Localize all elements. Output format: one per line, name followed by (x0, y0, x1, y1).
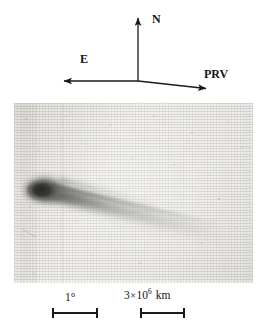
orientation-compass: N E PRV (0, 0, 267, 100)
comet-figure: N E PRV (0, 0, 267, 335)
compass-arrows-svg (0, 0, 267, 100)
east-label: E (80, 53, 88, 65)
comet-nucleus (32, 183, 52, 198)
angular-scale-label: 1° (65, 292, 75, 304)
north-label: N (152, 13, 161, 25)
scale-mantissa: 3 (124, 289, 130, 301)
scale-tick-right (183, 308, 185, 318)
linear-scale-label: 3×106km (124, 290, 170, 302)
photographic-plate (14, 103, 253, 283)
scale-tick-left (52, 308, 54, 318)
scale-unit: km (152, 289, 171, 301)
angular-scale-bar (52, 312, 98, 314)
scale-tick-left (140, 308, 142, 318)
comet-photograph (14, 103, 253, 283)
plate-scratch (22, 229, 36, 237)
prv-label: PRV (204, 68, 228, 80)
scale-base: 10 (136, 289, 148, 301)
scale-tick-right (96, 308, 98, 318)
comet-image-svg (14, 103, 253, 283)
linear-scale-bar (140, 312, 185, 314)
prv-arrow (138, 81, 206, 89)
